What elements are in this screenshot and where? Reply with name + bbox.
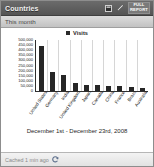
countries-widget: Countries FULL REPORT This month (0, 0, 154, 167)
chart-area: Visits 500,000450,000400,000350,000300,0… (1, 28, 153, 149)
chart-date-range: December 1st - December 23rd, 2008 (1, 128, 153, 134)
bar-series-visits (36, 40, 148, 91)
refresh-icon[interactable] (52, 156, 59, 163)
table-view-icon[interactable] (105, 5, 112, 12)
bar[interactable] (61, 75, 66, 91)
plot-region (35, 40, 148, 92)
widget-titlebar: Countries FULL REPORT (1, 1, 153, 16)
legend-label-visits: Visits (73, 30, 88, 36)
period-bar[interactable]: This month (1, 16, 153, 28)
y-axis-labels: 500,000450,000400,000350,000300,000250,0… (9, 40, 34, 91)
pencil-edit-icon[interactable] (116, 4, 124, 12)
widget-footer: Cached 1 min ago (1, 152, 153, 166)
x-tick-label: France (114, 90, 126, 105)
cache-status-label: Cached 1 min ago (5, 157, 49, 163)
chart-legend: Visits (1, 30, 153, 36)
y-tick-label: 0 (31, 89, 33, 93)
full-report-line2: REPORT (130, 7, 148, 12)
x-axis-labels: United StatesGermanyIndiaUnited KingdomJ… (35, 90, 147, 130)
legend-swatch-visits (66, 31, 70, 35)
titlebar-tools: FULL REPORT (105, 2, 150, 14)
full-report-button[interactable]: FULL REPORT (128, 2, 150, 14)
x-tick-label: India (60, 90, 70, 101)
bar[interactable] (50, 72, 55, 91)
widget-title: Countries (5, 5, 39, 12)
period-label: This month (5, 18, 36, 25)
bar[interactable] (39, 46, 44, 91)
